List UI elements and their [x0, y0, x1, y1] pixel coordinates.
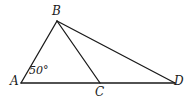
vertex-label-a: A [10, 75, 19, 87]
angle-measure-label-a: 50° [29, 65, 49, 76]
vertex-label-c: C [95, 86, 104, 98]
vertex-label-b: B [52, 5, 61, 17]
segment-BC [57, 21, 100, 83]
geometry-figure: A B C D 50° [0, 0, 193, 102]
segment-BD [57, 21, 175, 83]
vertex-label-d: D [174, 75, 184, 87]
